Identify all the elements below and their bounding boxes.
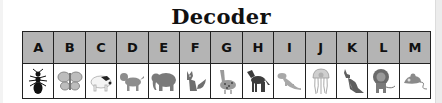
lion-icon: [370, 67, 396, 95]
goose-icon: [214, 67, 240, 95]
picture-cell: [180, 64, 210, 98]
page-title: Decoder: [0, 4, 442, 29]
letter-cell: A: [23, 32, 53, 63]
elephant-icon: [151, 67, 177, 95]
letter-cell: F: [180, 32, 210, 63]
picture-cell: [306, 64, 336, 98]
letter-cell: L: [368, 32, 398, 63]
letter-cell: G: [211, 32, 241, 63]
picture-cell: [337, 64, 367, 98]
cow-icon: [88, 67, 114, 95]
fox-icon: [182, 67, 208, 95]
picture-cell: [86, 64, 116, 98]
decoder-table: A B C D E F G H I J K L M: [22, 31, 431, 99]
picture-cell: [54, 64, 84, 98]
letter-cell: D: [117, 32, 147, 63]
jellyfish-icon: [308, 67, 334, 95]
letter-cell: M: [400, 32, 430, 63]
picture-cell: [274, 64, 304, 98]
horse-icon: [245, 67, 271, 95]
iguana-icon: [276, 67, 302, 95]
letter-cell: K: [337, 32, 367, 63]
dog-icon: [119, 67, 145, 95]
picture-cell: [23, 64, 53, 98]
letter-cell: H: [243, 32, 273, 63]
ant-icon: [25, 67, 51, 95]
letter-cell: J: [306, 32, 336, 63]
letter-cell: I: [274, 32, 304, 63]
picture-cell: [211, 64, 241, 98]
picture-cell: [243, 64, 273, 98]
letter-cell: E: [149, 32, 179, 63]
kangaroo-icon: [339, 67, 365, 95]
picture-cell: [117, 64, 147, 98]
butterfly-icon: [57, 67, 83, 95]
mouse-icon: [402, 67, 428, 95]
letter-cell: C: [86, 32, 116, 63]
picture-cell: [149, 64, 179, 98]
picture-cell: [400, 64, 430, 98]
letter-cell: B: [54, 32, 84, 63]
picture-cell: [368, 64, 398, 98]
